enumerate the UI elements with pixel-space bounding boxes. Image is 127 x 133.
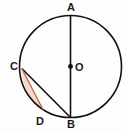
geometry-figure: A B C D O	[0, 0, 127, 133]
center-point-dot	[68, 64, 73, 69]
geometry-canvas	[0, 0, 127, 133]
center-label-o: O	[75, 62, 84, 73]
vertex-label-c: C	[10, 61, 18, 72]
vertex-label-a: A	[67, 2, 75, 13]
vertex-label-b: B	[67, 119, 75, 130]
vertex-label-d: D	[36, 116, 44, 127]
